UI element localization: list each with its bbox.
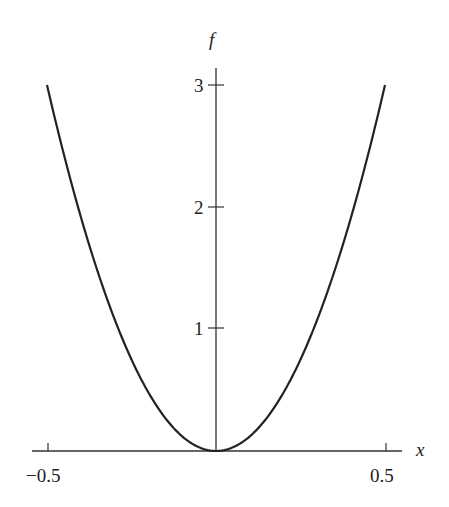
x-axis: −0.5 0.5 x [26, 439, 425, 486]
y-axis-label: f [209, 29, 217, 50]
x-axis-label: x [415, 439, 425, 460]
y-tick-label-3: 3 [194, 75, 204, 96]
x-tick-label-pos: 0.5 [370, 465, 394, 486]
y-tick-label-1: 1 [194, 318, 204, 339]
y-tick-label-2: 2 [194, 197, 204, 218]
y-axis: 1 2 3 f [194, 29, 224, 451]
parabola-chart: −0.5 0.5 x 1 2 3 f [0, 0, 449, 507]
x-tick-label-neg: −0.5 [26, 465, 60, 486]
